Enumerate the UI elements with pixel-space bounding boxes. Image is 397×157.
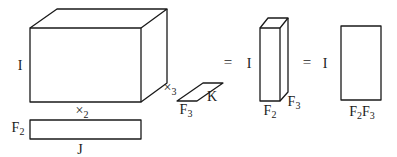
tensor-diagram: I ×2 ×3 F2 J F3 K = I F2 F3 = I F2F3 — [0, 0, 397, 157]
result-box-height-label: I — [247, 57, 252, 71]
result-box-depth-symbol: F — [288, 94, 296, 109]
result-box-width-symbol: F — [264, 103, 272, 118]
result-matrix — [341, 26, 381, 100]
result-matrix-f3-subscript: 3 — [370, 110, 375, 121]
result-box-width-label: F2 — [264, 104, 277, 120]
f2-left-label: F2 — [12, 121, 25, 137]
f2-subscript: 2 — [19, 126, 24, 137]
result-matrix-f3-symbol: F — [362, 104, 370, 119]
result-box-depth-label: F3 — [288, 95, 301, 111]
cube-depth-subscript: 3 — [171, 86, 176, 97]
f3-bottom-label: F3 — [180, 103, 193, 119]
result-matrix-f2-symbol: F — [349, 104, 357, 119]
cube-width-subscript: 2 — [83, 109, 88, 120]
cube-depth-symbol: × — [164, 80, 172, 95]
result-matrix-height-label: I — [323, 57, 328, 71]
tensor-cube — [30, 9, 167, 102]
result-box-depth-subscript: 3 — [295, 100, 300, 111]
factor-f2-rect — [30, 120, 141, 139]
f3-right-label: K — [207, 90, 217, 104]
cube-height-label: I — [18, 59, 23, 73]
result-matrix-width-label: F2F3 — [349, 105, 375, 121]
f3-symbol: F — [180, 102, 188, 117]
diagram-shapes — [0, 0, 397, 157]
result-box-width-subscript: 2 — [271, 109, 276, 120]
cube-width-label: ×2 — [76, 104, 89, 120]
equals-sign-2: = — [303, 55, 311, 70]
f3-subscript: 3 — [187, 108, 192, 119]
equals-sign-1: = — [224, 55, 232, 70]
result-box — [260, 18, 288, 101]
cube-depth-label: ×3 — [164, 81, 177, 97]
f2-bottom-label: J — [77, 143, 82, 157]
cube-width-symbol: × — [76, 103, 84, 118]
f2-symbol: F — [12, 120, 20, 135]
